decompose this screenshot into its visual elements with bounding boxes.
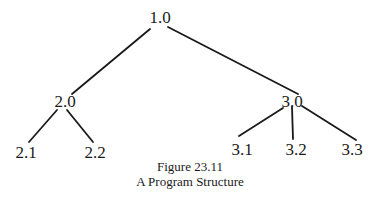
edge-3.0-3.3 — [302, 106, 356, 140]
edge-3.0-3.1 — [239, 108, 283, 136]
node-3-3: 3.3 — [341, 141, 362, 158]
node-3-0: 3.0 — [281, 93, 302, 110]
edge-2.0-2.2 — [67, 110, 93, 142]
node-3-1: 3.1 — [231, 141, 252, 158]
figure-number: Figure 23.11 — [0, 159, 380, 174]
edge-2.0-2.1 — [29, 110, 57, 142]
node-3-2: 3.2 — [285, 141, 306, 158]
edge-1.0-3.0 — [168, 27, 298, 94]
figure-title: A Program Structure — [0, 174, 380, 189]
node-2-0: 2.0 — [54, 93, 75, 110]
node-1-0: 1.0 — [149, 9, 170, 26]
edge-3.0-3.2 — [292, 107, 293, 139]
edge-1.0-2.0 — [72, 29, 150, 94]
